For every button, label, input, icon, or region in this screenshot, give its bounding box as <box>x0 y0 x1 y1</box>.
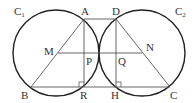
label-r: R <box>80 89 88 101</box>
label-q: Q <box>118 55 126 67</box>
label-p: P <box>86 55 92 67</box>
label-a: A <box>81 5 89 17</box>
label-m: M <box>44 45 54 57</box>
diagram-svg: C1 C2 A D M N P Q B R H C <box>0 0 195 103</box>
label-c2: C2 <box>175 5 186 19</box>
label-d: D <box>112 5 120 17</box>
label-c1: C1 <box>14 5 25 19</box>
label-b: B <box>21 89 28 101</box>
label-h: H <box>111 89 119 101</box>
label-c: C <box>170 89 177 101</box>
label-n: N <box>146 41 154 53</box>
right-angle-mark-h <box>116 82 121 87</box>
geometry-diagram: C1 C2 A D M N P Q B R H C <box>0 0 195 103</box>
